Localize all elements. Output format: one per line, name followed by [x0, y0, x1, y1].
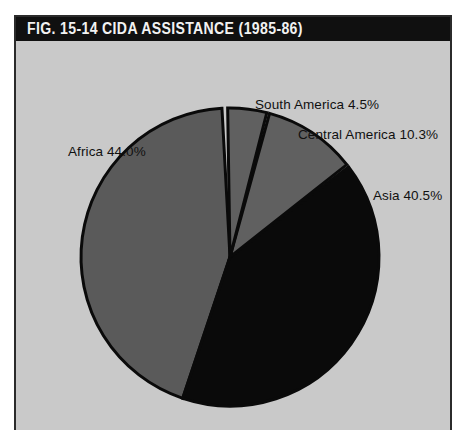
figure-title-bar: FIG. 15-14 CIDA ASSISTANCE (1985-86): [16, 17, 450, 41]
figure-panel: FIG. 15-14 CIDA ASSISTANCE (1985-86) Sou…: [14, 15, 452, 430]
pie-label-south-america: South America 4.5%: [255, 97, 379, 112]
pie-chart: [16, 41, 454, 430]
pie-label-asia: Asia 40.5%: [373, 188, 442, 203]
figure-title: FIG. 15-14 CIDA ASSISTANCE (1985-86): [27, 20, 303, 38]
pie-chart-plot-area: South America 4.5% Central America 10.3%…: [16, 41, 450, 430]
pie-label-africa: Africa 44.0%: [68, 144, 146, 159]
pie-label-central-america: Central America 10.3%: [298, 127, 438, 142]
